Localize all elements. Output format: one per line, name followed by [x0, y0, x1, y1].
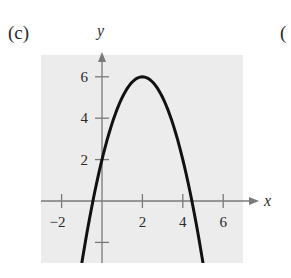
- x-tick-label: 2: [139, 214, 147, 230]
- plot-area: [41, 55, 243, 263]
- panel-label: (c): [8, 22, 29, 44]
- x-tick-label: 4: [179, 214, 187, 230]
- x-tick-label: −2: [50, 214, 66, 230]
- y-tick-label: 6: [81, 69, 89, 85]
- x-tick-label: 6: [219, 214, 227, 230]
- y-tick-label: 4: [81, 110, 89, 126]
- chart-figure: (c) ( x y −2246246: [0, 0, 291, 278]
- y-axis-label: y: [95, 22, 105, 40]
- y-tick-label: 2: [81, 152, 89, 168]
- x-axis-arrow-icon: [249, 197, 259, 205]
- next-panel-label: (: [280, 22, 286, 44]
- x-axis-label: x: [263, 192, 271, 209]
